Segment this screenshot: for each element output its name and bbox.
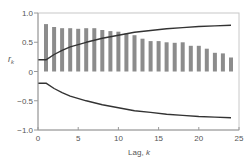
bar-lag-14 [149, 41, 153, 71]
bar-lag-20 [197, 46, 201, 72]
bar-lag-1 [44, 24, 48, 71]
bar-lag-23 [221, 53, 225, 71]
bar-lag-18 [181, 42, 185, 71]
x-tick-label: 0 [36, 134, 41, 143]
bar-lag-16 [165, 42, 169, 71]
bar-lag-19 [189, 46, 193, 72]
x-tick-label: 20 [194, 134, 203, 143]
bar-lag-17 [173, 43, 177, 72]
bar-lag-2 [52, 27, 56, 72]
bar-lag-15 [157, 41, 161, 71]
bar-lag-13 [141, 39, 145, 72]
bar-lag-21 [205, 49, 209, 72]
bar-lag-5 [76, 29, 80, 72]
bar-lag-4 [68, 28, 72, 71]
x-axis-label: Lag, k [128, 148, 151, 157]
bar-lag-6 [84, 28, 88, 71]
bar-lag-10 [116, 32, 120, 72]
y-axis-label: rk [8, 54, 15, 65]
bar-lag-8 [100, 30, 104, 72]
plot-frame [38, 13, 239, 130]
y-tick-label: 1.0 [22, 9, 34, 18]
bar-lag-7 [92, 28, 96, 71]
bar-lag-12 [133, 35, 137, 71]
x-tick-label: 5 [76, 134, 81, 143]
y-tick-label: −0.5 [17, 97, 33, 106]
x-tick-label: 15 [154, 134, 163, 143]
autocorrelation-chart: 1.00.50−0.5−1.0 0510152025 rk Lag, k [0, 0, 250, 162]
bar-lag-24 [229, 58, 233, 72]
y-axis-ticks: 1.00.50−0.5−1.0 [17, 9, 38, 135]
x-tick-label: 10 [114, 134, 123, 143]
x-tick-label: 25 [235, 134, 244, 143]
bar-lag-22 [213, 53, 217, 72]
y-tick-label: 0 [29, 68, 34, 77]
bar-lag-11 [124, 34, 128, 72]
y-tick-label: −1.0 [17, 126, 33, 135]
y-tick-label: 0.5 [22, 38, 34, 47]
